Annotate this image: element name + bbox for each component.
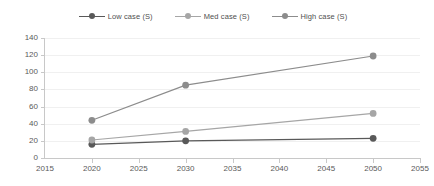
y-tick-mark (41, 158, 44, 159)
data-point-marker (182, 82, 189, 89)
y-tick-mark (41, 107, 44, 108)
y-tick-mark (41, 72, 44, 73)
x-tick-label: 2045 (306, 165, 346, 173)
series-line (92, 138, 373, 144)
x-tick-mark (186, 159, 187, 163)
x-tick-mark (92, 159, 93, 163)
x-tick-mark (373, 159, 374, 163)
data-point-marker (88, 117, 95, 124)
data-point-marker (182, 137, 189, 144)
series-line (92, 113, 373, 140)
x-tick-label: 2035 (213, 165, 253, 173)
x-tick-label: 2040 (259, 165, 299, 173)
y-tick-mark (41, 38, 44, 39)
data-point-marker (88, 137, 95, 144)
y-tick-mark (41, 141, 44, 142)
data-point-marker (182, 128, 189, 135)
x-tick-label: 2030 (166, 165, 206, 173)
x-tick-mark (326, 159, 327, 163)
x-tick-label: 2025 (119, 165, 159, 173)
series-line (92, 56, 373, 120)
x-tick-label: 2015 (25, 165, 65, 173)
y-tick-mark (41, 55, 44, 56)
x-tick-mark (420, 159, 421, 163)
y-tick-mark (41, 124, 44, 125)
data-point-marker (370, 135, 377, 142)
x-tick-label: 2020 (72, 165, 112, 173)
x-tick-label: 2050 (353, 165, 393, 173)
x-tick-label: 2055 (400, 165, 434, 173)
x-tick-mark (279, 159, 280, 163)
data-point-marker (370, 110, 377, 117)
y-tick-mark (41, 89, 44, 90)
x-tick-mark (233, 159, 234, 163)
data-point-marker (370, 53, 377, 60)
x-tick-mark (139, 159, 140, 163)
